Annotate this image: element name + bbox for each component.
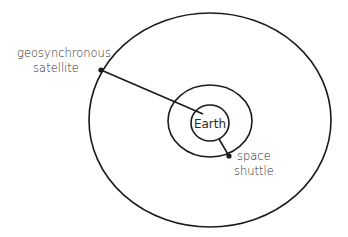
shuttle-label-line2: shuttle	[234, 164, 274, 178]
shuttle-label-line1: space	[237, 149, 271, 163]
orbit-diagram: Earth geosynchronous satellite space shu…	[0, 0, 348, 237]
shuttle-radius-line	[219, 139, 229, 156]
satellite-radius-line	[101, 70, 203, 114]
satellite-label-line1: geosynchronous	[17, 46, 111, 60]
satellite-dot	[98, 67, 103, 72]
satellite-label-line2: satellite	[33, 61, 79, 75]
earth-label: Earth	[194, 117, 226, 131]
shuttle-dot	[226, 153, 231, 158]
